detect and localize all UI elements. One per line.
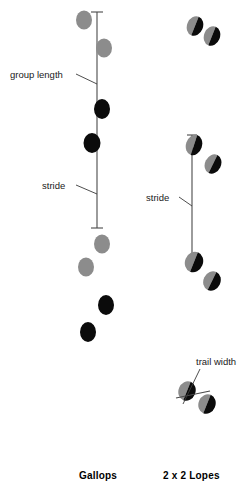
track-pad	[84, 133, 101, 153]
panel-caption-gallops: Gallops	[79, 470, 117, 481]
stride-right-label: stride	[146, 192, 169, 203]
track-pad	[76, 11, 92, 30]
track-pad	[94, 99, 110, 119]
stride-left-label: stride	[42, 180, 65, 191]
track-pattern-diagram: group length stride Gallops	[0, 0, 250, 498]
track-pad	[98, 295, 114, 315]
panel-caption-two-by-two-lopes: 2 x 2 Lopes	[163, 470, 220, 481]
track-pad	[96, 39, 112, 58]
track-pad	[78, 258, 94, 277]
group-length-label: group length	[10, 69, 63, 80]
trail-width-label: trail width	[196, 356, 236, 367]
track-pad	[94, 235, 110, 254]
track-pad	[80, 322, 96, 342]
